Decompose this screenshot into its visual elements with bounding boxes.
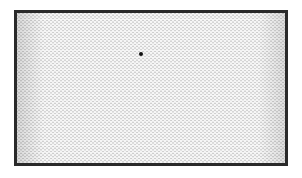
edge-vignette [17,13,285,163]
image-canvas: Hexagonal particle lattice with a single… [0,0,302,178]
point-defect [139,52,143,56]
specimen-frame [14,10,288,166]
hexagonal-particle-lattice [17,13,285,163]
image-caption: Hexagonal particle lattice with a single… [0,177,1,178]
